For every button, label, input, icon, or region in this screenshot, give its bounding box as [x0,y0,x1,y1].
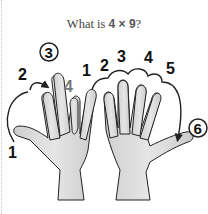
label-right-2: 2 [100,57,109,74]
label-left-index-2: 2 [18,66,27,83]
label-left-ring-4: 4 [64,78,73,95]
label-left-pinky-1: 1 [82,62,91,79]
label-left-thumb-1: 1 [8,144,17,161]
label-right-thumb-6: 6 [194,120,202,137]
label-right-3: 3 [117,48,126,65]
label-right-5: 5 [166,60,175,77]
hands-diagram: 1 2 3 4 1 2 3 4 5 6 [0,0,208,214]
label-right-4: 4 [144,49,153,66]
label-left-middle-3: 3 [45,44,53,61]
